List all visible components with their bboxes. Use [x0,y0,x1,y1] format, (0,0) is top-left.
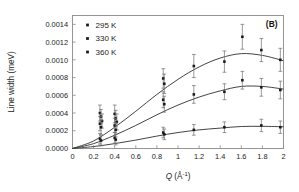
data-point [100,139,103,142]
x-tick-label: 0.6 [131,152,141,161]
x-tick-label: 1.8 [257,152,267,161]
x-tick-label: 2 [281,152,285,161]
data-point [114,129,117,132]
data-point [163,82,166,85]
line-width-vs-q-chart: 00.20.40.60.811.21.41.61.820.00000.00020… [0,0,299,192]
data-point [260,124,263,127]
data-point [241,35,244,38]
data-point [241,79,244,82]
y-axis-title: Line width (meV) [7,51,16,113]
data-point [279,89,282,92]
y-tick-label: 0.0014 [45,20,68,29]
legend-label-295-k: 295 K [96,21,118,30]
y-tick-label: 0.0004 [45,109,68,118]
legend-label-360-k: 360 K [96,48,118,57]
y-tick-label: 0.0006 [45,91,68,100]
data-point [279,59,282,62]
data-point [260,86,263,89]
x-tick-label: 1.6 [236,152,246,161]
panel-label: (B) [266,19,278,29]
fit-curve [73,54,284,149]
x-tick-label: 0.8 [152,152,162,161]
x-tick-label: 1.4 [215,152,225,161]
y-tick-label: 0.0008 [45,73,68,82]
fit-curve [73,86,284,149]
x-tick-label: 0 [70,152,74,161]
x-tick-label: 1 [176,152,180,161]
data-point [193,65,196,68]
legend-marker-295-k [86,24,89,27]
series-330-k [73,71,284,148]
y-tick-label: 0.0012 [45,38,68,47]
data-point [163,103,166,106]
x-tick-label: 0.4 [110,152,120,161]
data-point [100,126,103,129]
legend-marker-360-k [86,51,89,54]
data-point [223,60,226,63]
x-tick-label: 1.2 [194,152,204,161]
y-tick-label: 0.0010 [45,56,68,65]
x-axis-title: Q (Å-1) [166,171,191,181]
data-point [279,126,282,129]
legend-label-330-k: 330 K [96,34,118,43]
x-tick-label: 0.2 [88,152,98,161]
data-point [223,90,226,93]
series-360-k [73,119,284,148]
data-point [223,126,226,129]
data-point [193,129,196,132]
data-point [260,49,263,52]
data-point [114,138,117,141]
y-tick-label: 0.0000 [45,144,68,153]
figure-panel-b: 00.20.40.60.811.21.41.61.820.00000.00020… [0,0,299,192]
legend-marker-330-k [86,37,89,40]
y-tick-label: 0.0002 [45,126,68,135]
fit-curve [73,126,284,148]
data-point [163,133,166,136]
data-point [193,93,196,96]
